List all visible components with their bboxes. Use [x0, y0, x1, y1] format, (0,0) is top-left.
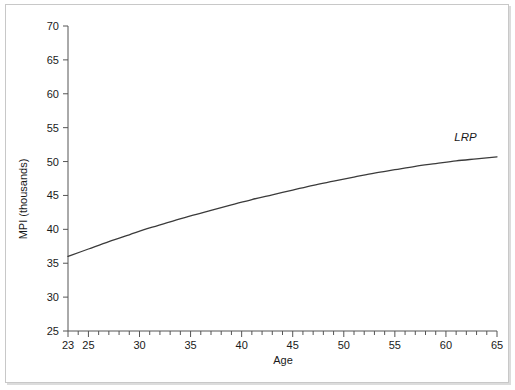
x-tick-label: 60	[440, 339, 452, 351]
y-tick-label: 25	[47, 325, 59, 337]
x-tick-label: 35	[184, 339, 196, 351]
y-tick-label: 45	[47, 189, 59, 201]
line-chart: 25303540455055606570 2325303540455055606…	[0, 0, 515, 390]
x-axis-tick-labels: 23253035404550556065	[62, 339, 503, 351]
x-tick-label: 65	[491, 339, 503, 351]
y-tick-label: 55	[47, 122, 59, 134]
y-tick-label: 30	[47, 291, 59, 303]
y-tick-label: 35	[47, 257, 59, 269]
series-label-lrp: LRP	[454, 131, 477, 143]
x-tick-label: 30	[133, 339, 145, 351]
y-axis-tick-labels: 25303540455055606570	[47, 20, 59, 337]
x-tick-label: 40	[236, 339, 248, 351]
y-axis-ticks	[63, 26, 68, 331]
y-tick-label: 50	[47, 156, 59, 168]
chart-figure: 25303540455055606570 2325303540455055606…	[0, 0, 515, 390]
x-tick-label: 50	[338, 339, 350, 351]
y-tick-label: 40	[47, 223, 59, 235]
axes-lines	[68, 26, 497, 331]
y-tick-label: 65	[47, 54, 59, 66]
x-tick-label: 45	[287, 339, 299, 351]
y-axis-title: MPI (thousands)	[17, 159, 29, 240]
x-tick-label: 23	[62, 339, 74, 351]
y-tick-label: 70	[47, 20, 59, 32]
x-tick-label: 55	[389, 339, 401, 351]
series-line-lrp	[68, 157, 497, 257]
x-axis-title: Age	[273, 354, 293, 366]
x-tick-label: 25	[82, 339, 94, 351]
y-tick-label: 60	[47, 88, 59, 100]
